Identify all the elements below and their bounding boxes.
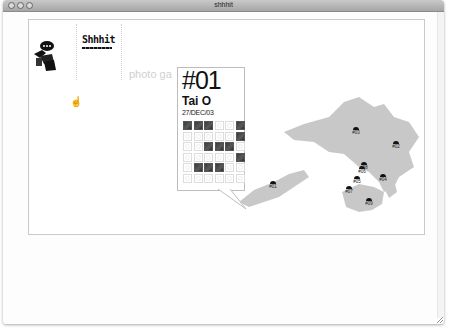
map-marker[interactable]: #08 xyxy=(354,162,374,170)
empty-slot xyxy=(236,142,245,151)
empty-slot xyxy=(204,132,213,141)
marker-label: #07 xyxy=(339,189,359,194)
app-window: shhhit Shhhit photo ga ☝ xyxy=(3,0,444,324)
window-title: shhhit xyxy=(3,1,444,8)
empty-slot xyxy=(236,174,245,183)
map-marker[interactable]: #02 xyxy=(386,141,406,149)
empty-slot xyxy=(225,132,234,141)
photo-thumbnail[interactable] xyxy=(204,142,213,151)
photo-thumbnail[interactable] xyxy=(204,121,213,130)
hand-cursor-icon: ☝ xyxy=(70,96,82,107)
photo-thumbnail[interactable] xyxy=(236,153,245,162)
location-name: Tai O xyxy=(182,94,211,108)
photo-thumbnail[interactable] xyxy=(236,132,245,141)
empty-slot xyxy=(215,121,224,130)
map-marker[interactable]: #04 xyxy=(373,174,393,182)
empty-slot xyxy=(225,121,234,130)
location-date: 27/DEC/03 xyxy=(182,109,214,116)
photo-thumbnail[interactable] xyxy=(204,163,213,172)
marker-label: #02 xyxy=(386,144,406,149)
empty-slot xyxy=(183,132,192,141)
empty-slot xyxy=(194,174,203,183)
empty-slot xyxy=(225,163,234,172)
empty-slot xyxy=(236,163,245,172)
empty-slot xyxy=(215,132,224,141)
divider xyxy=(121,24,122,80)
hong-kong-map[interactable] xyxy=(234,92,434,222)
photo-thumbnail[interactable] xyxy=(215,163,224,172)
title-bar[interactable]: shhhit xyxy=(3,0,444,12)
photo-thumbnail[interactable] xyxy=(194,121,203,130)
map-marker[interactable]: #05 xyxy=(347,176,367,184)
empty-slot xyxy=(225,174,234,183)
empty-slot xyxy=(194,142,203,151)
map-land-icon xyxy=(234,92,434,222)
empty-slot xyxy=(183,163,192,172)
marker-label: #09 xyxy=(359,201,379,206)
photo-gallery-link[interactable]: photo ga xyxy=(129,68,172,80)
map-marker[interactable]: #07 xyxy=(339,186,359,194)
popup-pointer xyxy=(218,189,248,211)
empty-slot xyxy=(194,132,203,141)
empty-slot xyxy=(194,153,203,162)
photo-thumbnail[interactable] xyxy=(194,163,203,172)
empty-slot xyxy=(215,153,224,162)
map-marker[interactable]: #09 xyxy=(359,198,379,206)
photo-thumbnail[interactable] xyxy=(225,142,234,151)
photo-thumbnail-grid xyxy=(183,121,245,183)
empty-slot xyxy=(204,153,213,162)
marker-label: #03 xyxy=(346,130,366,135)
empty-slot xyxy=(225,153,234,162)
resize-grip-icon[interactable] xyxy=(437,317,443,323)
photo-thumbnail[interactable] xyxy=(215,142,224,151)
location-popup: #01 Tai O 27/DEC/03 xyxy=(177,67,245,191)
empty-slot xyxy=(215,174,224,183)
marker-label: #01 xyxy=(263,184,283,189)
marker-label: #04 xyxy=(373,177,393,182)
location-number: #01 xyxy=(182,66,221,95)
empty-slot xyxy=(183,153,192,162)
empty-slot xyxy=(183,174,192,183)
photo-thumbnail[interactable] xyxy=(183,121,192,130)
marker-label: #08 xyxy=(354,165,374,170)
figure-with-speech-bubble-icon[interactable] xyxy=(32,40,58,72)
map-marker[interactable]: #01 xyxy=(263,181,283,189)
logo-wordmark[interactable]: Shhhit xyxy=(82,34,115,45)
logo-underline xyxy=(82,47,112,49)
divider xyxy=(76,24,77,80)
marker-label: #05 xyxy=(347,179,367,184)
empty-slot xyxy=(183,142,192,151)
empty-slot xyxy=(204,174,213,183)
photo-thumbnail[interactable] xyxy=(236,121,245,130)
map-marker[interactable]: #03 xyxy=(346,127,366,135)
vertical-scrollbar[interactable] xyxy=(437,12,444,318)
